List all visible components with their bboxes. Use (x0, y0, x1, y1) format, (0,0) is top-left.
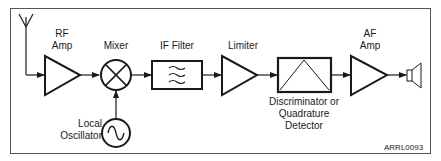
rf-amp-label-line2: Amp (47, 40, 77, 52)
speaker-icon (407, 63, 421, 88)
af-amp-label-line1: AF (355, 28, 385, 40)
figure-code: ARRL0093 (384, 143, 423, 152)
mixer-icon (101, 60, 131, 90)
af-amp-label-line2: Amp (355, 40, 385, 52)
discriminator-label-line1: Discriminator or (262, 96, 346, 108)
discriminator-icon (278, 58, 331, 92)
af-amp-label: AF Amp (355, 28, 385, 52)
rf-amp-label: RF Amp (47, 28, 77, 52)
local-oscillator-label: Local Oscillator (36, 118, 102, 142)
af-amp-icon (351, 56, 387, 95)
if-filter-label: IF Filter (152, 40, 202, 52)
local-oscillator-icon (102, 119, 130, 147)
if-filter-icon (152, 61, 202, 89)
antenna-icon (19, 14, 33, 75)
discriminator-label: Discriminator or Quadrature Detector (262, 96, 346, 132)
local-oscillator-label-line2: Oscillator (36, 130, 102, 142)
rf-amp-icon (45, 56, 80, 95)
limiter-label: Limiter (218, 40, 268, 52)
discriminator-label-line2: Quadrature (262, 108, 346, 120)
limiter-icon (222, 56, 257, 95)
discriminator-label-line3: Detector (262, 120, 346, 132)
rf-amp-label-line1: RF (47, 28, 77, 40)
mixer-label: Mixer (96, 40, 136, 52)
local-oscillator-label-line1: Local (36, 118, 102, 130)
